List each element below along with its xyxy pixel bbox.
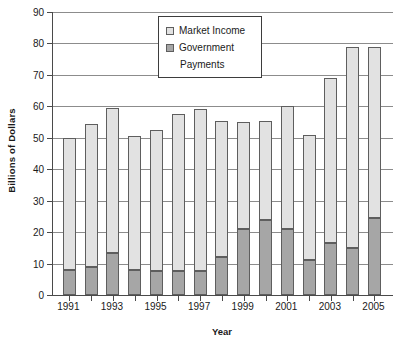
bar-segment-market-income <box>259 121 272 220</box>
bar-segment-market-income <box>368 47 381 218</box>
legend-item-market-income: Market Income <box>166 22 261 39</box>
y-axis-tick-label: 10 <box>18 258 44 269</box>
bar-segment-government-payments <box>172 271 185 295</box>
chart-legend: Market Income Government Payments <box>158 16 262 78</box>
bar-segment-government-payments <box>194 271 207 295</box>
bar-1992 <box>85 12 98 295</box>
legend-label-payments: Payments <box>180 59 224 70</box>
bar-segment-market-income <box>324 78 337 243</box>
bar-segment-market-income <box>303 135 316 261</box>
bar-2003 <box>324 12 337 295</box>
y-axis-tick-mark <box>47 169 52 170</box>
stacked-bar-chart: Billions of Dollars Market Income Govern… <box>0 0 406 351</box>
x-axis-title: Year <box>52 326 392 337</box>
y-axis-tick-label: 20 <box>18 227 44 238</box>
bar-1991 <box>63 12 76 295</box>
x-axis-tick-label: 1991 <box>48 301 88 312</box>
bar-segment-government-payments <box>368 218 381 295</box>
y-axis-tick-mark <box>47 106 52 107</box>
bar-segment-government-payments <box>303 260 316 295</box>
bar-segment-market-income <box>106 108 119 253</box>
bar-segment-government-payments <box>106 253 119 295</box>
y-axis-tick-label: 50 <box>18 132 44 143</box>
y-axis-tick-label: 40 <box>18 164 44 175</box>
y-axis-tick-mark <box>47 43 52 44</box>
bar-segment-government-payments <box>85 267 98 295</box>
bar-segment-market-income <box>194 109 207 271</box>
x-axis-tick-label: 2001 <box>266 301 306 312</box>
y-axis-tick-label: 90 <box>18 7 44 18</box>
legend-label-payments-continuation-wrap: Payments <box>166 56 261 73</box>
bar-segment-government-payments <box>150 271 163 295</box>
y-axis-tick-mark <box>47 75 52 76</box>
bar-segment-government-payments <box>324 243 337 295</box>
y-axis-tick-mark <box>47 295 52 296</box>
x-axis-tick-label: 1993 <box>92 301 132 312</box>
x-axis-tick-label: 1997 <box>179 301 219 312</box>
legend-swatch-market-income-icon <box>166 27 174 35</box>
bar-2002 <box>303 12 316 295</box>
y-axis-tick-mark <box>47 12 52 13</box>
bar-2004 <box>346 12 359 295</box>
bar-segment-market-income <box>85 124 98 267</box>
y-axis-tick-mark <box>47 232 52 233</box>
bar-1994 <box>128 12 141 295</box>
legend-item-government-payments: Government <box>166 39 261 56</box>
bar-segment-government-payments <box>215 257 228 295</box>
bar-segment-government-payments <box>237 229 250 295</box>
bar-segment-government-payments <box>281 229 294 295</box>
bar-segment-market-income <box>128 136 141 270</box>
bar-segment-market-income <box>237 122 250 229</box>
y-axis-tick-label: 0 <box>18 290 44 301</box>
bar-segment-market-income <box>172 114 185 271</box>
y-axis-tick-label: 60 <box>18 101 44 112</box>
bar-segment-government-payments <box>128 270 141 295</box>
legend-swatch-government-payments-icon <box>166 44 174 52</box>
y-axis-tick-mark <box>47 201 52 202</box>
y-axis-tick-label: 70 <box>18 69 44 80</box>
y-axis-tick-mark <box>47 264 52 265</box>
bar-1993 <box>106 12 119 295</box>
bar-segment-market-income <box>215 121 228 258</box>
bar-segment-market-income <box>63 138 76 270</box>
x-axis-tick-label: 1995 <box>136 301 176 312</box>
y-axis-tick-label: 80 <box>18 38 44 49</box>
legend-label-market-income: Market Income <box>179 25 245 36</box>
bar-segment-market-income <box>281 106 294 229</box>
bar-segment-market-income <box>150 130 163 272</box>
x-axis-tick-label: 1999 <box>223 301 263 312</box>
bar-2001 <box>281 12 294 295</box>
x-axis-tick-label: 2005 <box>353 301 393 312</box>
bar-segment-government-payments <box>259 220 272 295</box>
bar-segment-government-payments <box>346 248 359 295</box>
bar-2005 <box>368 12 381 295</box>
x-axis-tick-label: 2003 <box>310 301 350 312</box>
bar-segment-government-payments <box>63 270 76 295</box>
bar-segment-market-income <box>346 47 359 248</box>
y-axis-tick-mark <box>47 138 52 139</box>
legend-label-government: Government <box>179 42 234 53</box>
y-axis-tick-label: 30 <box>18 195 44 206</box>
y-axis-title-text: Billions of Dollars <box>6 108 17 193</box>
